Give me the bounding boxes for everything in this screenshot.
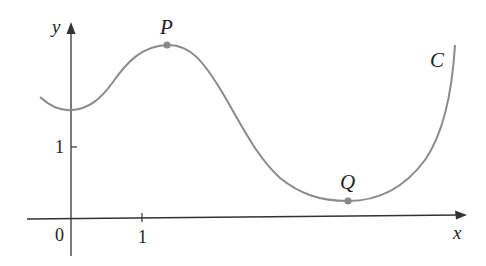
x-axis-label: x [453, 223, 461, 242]
y-axis-label: y [52, 17, 60, 36]
x-axis-arrow-icon [455, 211, 467, 220]
point-p [163, 41, 170, 48]
y-axis-arrow-icon [67, 22, 76, 34]
function-graph: y x 0 1 1 P Q C [0, 0, 486, 266]
point-q-label: Q [340, 172, 355, 193]
graph-canvas [0, 0, 486, 266]
y-tick-label: 1 [55, 138, 64, 156]
curve-c [40, 45, 455, 201]
x-axis [27, 215, 460, 219]
x-tick-label: 1 [138, 228, 147, 246]
point-q [344, 197, 351, 204]
origin-label: 0 [55, 226, 64, 244]
curve-label: C [430, 50, 444, 71]
point-p-label: P [160, 17, 173, 38]
